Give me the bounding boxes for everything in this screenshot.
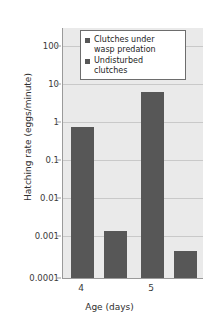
y-tick-label: 0.001: [3, 232, 59, 241]
legend-item-label: Undisturbed clutches: [94, 56, 143, 75]
y-tick-mark: [56, 160, 61, 161]
y-tick-label: 100: [3, 42, 59, 51]
gridline: [63, 122, 203, 123]
legend-item: Undisturbed clutches: [85, 56, 180, 75]
y-tick-mark: [56, 46, 61, 47]
y-tick-label: 1: [3, 118, 59, 127]
legend-item: Clutches under wasp predation: [85, 35, 180, 54]
y-tick-mark: [56, 278, 61, 279]
y-tick-label: 10: [3, 80, 59, 89]
x-axis-title: Age (days): [0, 302, 219, 312]
legend-swatch-icon: [85, 38, 90, 43]
gridline: [63, 84, 203, 85]
chart-legend: Clutches under wasp predation Undisturbe…: [80, 30, 186, 80]
x-tick-label: 5: [121, 283, 181, 293]
bar-age5-wasp-predation: [141, 92, 164, 278]
y-tick-mark: [56, 198, 61, 199]
bar-age5-undisturbed: [174, 251, 197, 278]
y-axis-ticks: 100 10 1 0.1 0.01 0.001 0.0001: [0, 28, 59, 279]
legend-item-label: Clutches under wasp predation: [94, 35, 156, 54]
y-tick-mark: [56, 84, 61, 85]
y-tick-mark: [56, 236, 61, 237]
y-tick-mark: [56, 122, 61, 123]
legend-swatch-icon: [85, 59, 90, 64]
hatching-rate-bar-chart: Hatching rate (eggs/minute) 100 10 1 0.1…: [0, 0, 219, 323]
y-tick-label: 0.1: [3, 156, 59, 165]
y-tick-label: 0.0001: [3, 274, 59, 283]
bar-age4-undisturbed: [104, 231, 127, 278]
y-tick-label: 0.01: [3, 194, 59, 203]
x-tick-label: 4: [51, 283, 111, 293]
bar-age4-wasp-predation: [71, 127, 94, 278]
